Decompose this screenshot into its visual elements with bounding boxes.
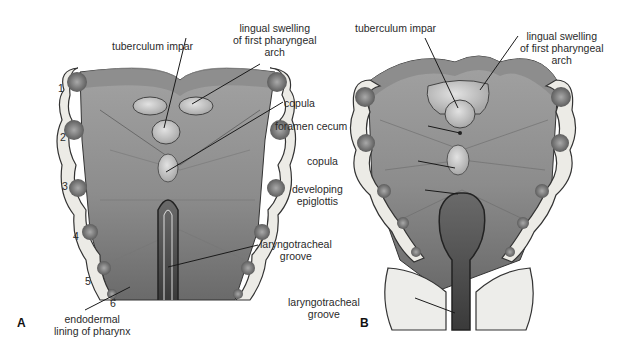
panel-a-tuberculum-impar [152,120,180,144]
label-a-lingual-swelling: lingual swelling of first pharyngeal arc… [233,22,316,58]
label-b-foramen-cecum: foramen cecum [275,120,347,132]
label-b-lingual-swelling: lingual swelling of first pharyngeal arc… [520,30,603,66]
arch-number-6: 6 [110,297,116,309]
panel-a-lingual-swelling-right [179,97,213,115]
label-b-laryngotracheal-groove: laryngotracheal groove [288,296,360,320]
label-a-endodermal-lining: endodermal lining of pharynx [54,313,130,337]
panel-a-laryngotracheal-groove [158,200,178,300]
arch-number-2: 2 [60,131,66,143]
arch-number-4: 4 [73,230,79,242]
panel-b-copula [447,145,469,175]
panel-letter-a: A [17,316,26,330]
arch-number-1: 1 [58,82,64,94]
panel-b-drawing [350,36,575,330]
label-a-tuberculum-impar: tuberculum impar [112,40,193,52]
label-a-laryngotracheal-groove: laryngotracheal groove [260,238,332,262]
panel-a-copula [158,154,178,182]
label-b-tuberculum-impar: tuberculum impar [355,22,436,34]
arch-number-3: 3 [62,180,68,192]
panel-a-lingual-swelling-left [133,97,167,115]
panel-b-tuberculum-impar [445,100,475,128]
arch-number-5: 5 [85,275,91,287]
label-a-copula: copula [284,97,315,109]
panel-letter-b: B [360,316,369,330]
label-b-developing-epiglottis: developing epiglottis [292,183,343,207]
panel-b-lower-lobe-right [476,268,533,330]
panel-a-drawing [57,38,296,310]
label-b-copula: copula [307,155,338,167]
